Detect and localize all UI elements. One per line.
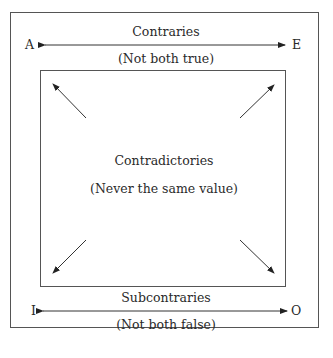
diagonal-arrow-top-left bbox=[53, 84, 86, 118]
corner-e: E bbox=[292, 37, 301, 52]
corner-o: O bbox=[291, 303, 301, 318]
contraries-label: Contraries bbox=[132, 24, 199, 39]
corner-a: A bbox=[25, 37, 34, 52]
diagonal-arrow-bottom-left bbox=[53, 240, 86, 273]
subcontraries-subtitle: (Not both false) bbox=[116, 317, 216, 332]
contradictories-subtitle: (Never the same value) bbox=[90, 181, 238, 196]
diagonal-arrow-top-right bbox=[240, 85, 274, 118]
corner-i: I bbox=[31, 303, 36, 318]
contradictories-label: Contradictories bbox=[115, 153, 214, 168]
contraries-subtitle: (Not both true) bbox=[118, 51, 214, 66]
subcontraries-label: Subcontraries bbox=[121, 290, 210, 305]
diagonal-arrow-bottom-right bbox=[240, 240, 274, 273]
